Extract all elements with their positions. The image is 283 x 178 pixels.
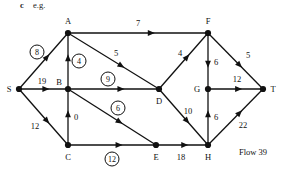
node-label-s: S	[7, 85, 12, 94]
arrowhead-s-b	[42, 86, 49, 92]
node-label-c: C	[65, 153, 71, 162]
arrowhead-b-e	[115, 118, 122, 124]
edge-label-f-g: 6	[214, 58, 218, 67]
arrowhead-h-g	[205, 110, 211, 117]
node-label-d: D	[156, 97, 162, 106]
edge-label-e-h: 18	[177, 153, 186, 162]
node-s[interactable]	[16, 86, 22, 92]
edge-label-h-t: 22	[239, 121, 248, 130]
arrowhead-f-g	[205, 61, 211, 68]
arrowhead-b-a	[65, 54, 71, 61]
node-label-h: H	[205, 153, 211, 162]
node-t[interactable]	[260, 86, 266, 92]
edge-label-f-t: 5	[246, 51, 250, 60]
edge-label-h-g: 6	[214, 113, 218, 122]
arrowhead-e-h	[181, 142, 188, 148]
flow-total-note: Flow 39	[239, 148, 267, 157]
edge-label-s-b: 19	[38, 77, 47, 86]
node-label-t: T	[270, 85, 275, 94]
edge-label-b-a: 4	[72, 54, 87, 69]
edge-label-d-h: 10	[184, 107, 193, 116]
edge-label-a-f: 7	[136, 19, 140, 28]
edge-d-h	[159, 89, 208, 145]
edge-label-b-d: 9	[101, 72, 116, 87]
edge-label-s-a: 8	[30, 45, 45, 60]
arrowhead-b-d	[117, 86, 124, 92]
arrowhead-a-d	[117, 62, 124, 68]
edge-b-e	[68, 89, 156, 145]
arrowhead-c-b	[65, 110, 71, 117]
node-f[interactable]	[205, 30, 211, 36]
edge-label-s-c: 12	[31, 122, 40, 131]
node-b[interactable]	[65, 86, 71, 92]
node-h[interactable]	[205, 142, 211, 148]
edge-d-f	[159, 33, 208, 89]
edge-label-c-e: 12	[105, 152, 120, 167]
edge-label-g-t: 12	[233, 75, 242, 84]
edge-s-c	[19, 89, 68, 145]
edge-label-c-b: 0	[74, 113, 78, 122]
arrowhead-a-f	[148, 30, 155, 36]
arrowhead-c-e	[116, 142, 123, 148]
node-e[interactable]	[153, 142, 159, 148]
edge-label-b-e: 6	[111, 101, 126, 116]
arrowhead-g-t	[235, 86, 242, 92]
node-label-a: A	[65, 17, 71, 26]
node-d[interactable]	[156, 86, 162, 92]
edge-label-d-f: 4	[178, 49, 182, 58]
node-a[interactable]	[65, 30, 71, 36]
flow-network-diagram-page: c e.g. SABCDEFGHT81912754960124101865126…	[0, 0, 283, 178]
node-label-g: G	[194, 85, 200, 94]
node-c[interactable]	[65, 142, 71, 148]
node-g[interactable]	[205, 86, 211, 92]
node-label-b: B	[56, 78, 62, 87]
node-label-f: F	[206, 17, 211, 26]
edge-label-a-d: 5	[114, 49, 118, 58]
node-label-e: E	[153, 153, 158, 162]
